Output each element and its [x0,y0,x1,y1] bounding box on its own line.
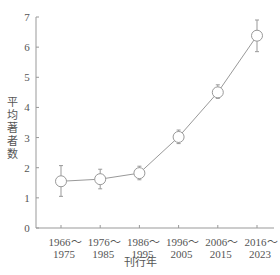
svg-text:著: 著 [7,121,18,135]
y-tick-label: 3 [24,132,30,144]
data-point-marker [134,168,145,179]
data-point-marker [173,131,184,142]
y-tick-label: 0 [24,222,30,234]
x-tick-label: 1975 [53,248,76,260]
chart-canvas: 01234567 1966～19751976～19851986～19951996… [0,0,280,275]
x-tick-label: 2005 [171,248,194,260]
y-axis: 01234567 [24,11,39,234]
x-tick-label: 2016～ [245,236,278,248]
x-tick-label: 1985 [92,248,115,260]
x-tick-label: 1976～ [88,236,121,248]
y-tick-label: 5 [24,71,30,83]
x-axis: 1966～19751976～19851986～19951996～20052006… [36,225,278,260]
svg-text:均: 均 [7,109,18,122]
data-series [56,20,263,196]
x-tick-label: 2006～ [205,236,238,248]
y-tick-label: 6 [24,41,30,53]
data-point-marker [95,174,106,185]
y-tick-label: 1 [24,192,30,204]
data-point-marker [212,87,223,98]
data-point-marker [252,30,263,41]
series-line [61,36,257,182]
x-tick-label: 2023 [249,248,272,260]
x-tick-label: 1996～ [166,236,199,248]
svg-text:平: 平 [7,96,18,109]
x-tick-label: 1966～ [49,236,82,248]
x-axis-title: 刊行年 [124,255,157,269]
data-point-marker [56,176,67,187]
svg-text:者: 者 [7,135,18,148]
x-tick-label: 1986～ [127,236,160,248]
y-axis-title: 平均著者数 [7,96,18,161]
y-tick-label: 7 [24,11,30,23]
y-tick-label: 4 [24,101,30,113]
x-tick-label: 2015 [210,248,233,260]
y-tick-label: 2 [24,162,30,174]
svg-text:数: 数 [7,148,18,161]
